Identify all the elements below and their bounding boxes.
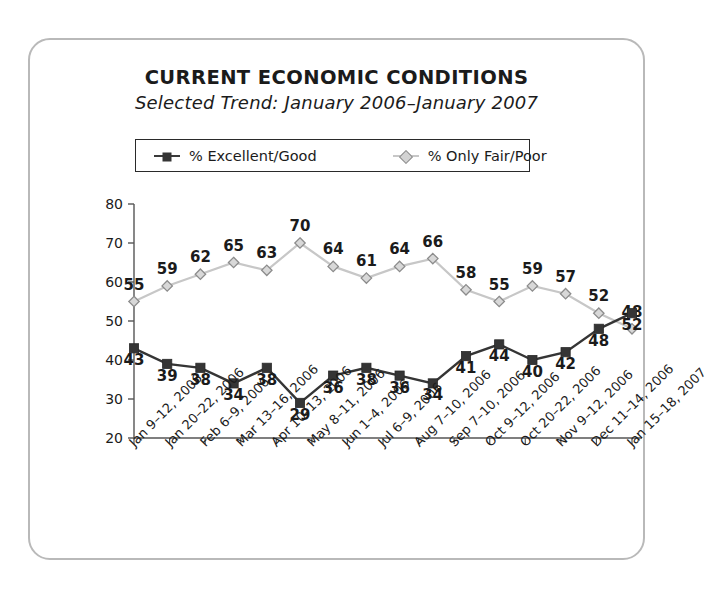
data-point-label: 55 xyxy=(489,276,510,294)
data-point-label: 58 xyxy=(456,264,477,282)
chart-card: CURRENT ECONOMIC CONDITIONS Selected Tre… xyxy=(28,38,645,560)
y-axis-tick-label: 50 xyxy=(105,313,123,329)
data-point-label: 55 xyxy=(124,276,145,294)
data-point-marker xyxy=(560,289,570,299)
data-point-label: 63 xyxy=(256,244,277,262)
data-point-label: 64 xyxy=(389,240,410,258)
data-point-marker xyxy=(394,261,404,271)
diamond-marker-icon xyxy=(399,149,413,163)
y-axis-tick-label: 40 xyxy=(105,352,123,368)
data-point-marker xyxy=(195,269,205,279)
data-point-label: 41 xyxy=(456,359,477,377)
data-point-label: 48 xyxy=(588,332,609,350)
data-point-label: 64 xyxy=(323,240,344,258)
data-point-label: 42 xyxy=(555,355,576,373)
data-point-label: 52 xyxy=(622,316,643,334)
data-point-label: 39 xyxy=(157,367,178,385)
data-point-label: 62 xyxy=(190,248,211,266)
data-point-marker xyxy=(494,296,504,306)
legend-item-only-fair-poor[interactable]: % Only Fair/Poor xyxy=(393,148,547,164)
chart-title: CURRENT ECONOMIC CONDITIONS xyxy=(30,66,643,89)
y-axis-tick-label: 30 xyxy=(105,391,123,407)
data-point-label: 61 xyxy=(356,252,377,270)
y-axis-tick-label: 60 xyxy=(105,274,123,290)
data-point-label: 59 xyxy=(157,260,178,278)
legend-item-excellent-good[interactable]: % Excellent/Good xyxy=(154,148,317,164)
data-point-marker xyxy=(527,281,537,291)
chart-legend: % Excellent/Good % Only Fair/Poor xyxy=(135,139,530,172)
data-point-label: 59 xyxy=(522,260,543,278)
x-axis-labels: Jan 9–12, 2006Jan 20–22, 2006Feb 6–9, 20… xyxy=(30,435,647,565)
data-point-label: 44 xyxy=(489,347,510,365)
y-axis-tick-label: 80 xyxy=(105,196,123,212)
data-point-label: 52 xyxy=(588,287,609,305)
data-point-label: 43 xyxy=(124,351,145,369)
data-point-label: 65 xyxy=(223,237,244,255)
y-axis-tick-label: 70 xyxy=(105,235,123,251)
data-point-marker xyxy=(361,273,371,283)
legend-line-excellent-good xyxy=(154,155,180,157)
square-marker-icon xyxy=(163,152,172,161)
legend-label-only-fair-poor: % Only Fair/Poor xyxy=(428,148,547,164)
chart-subtitle: Selected Trend: January 2006–January 200… xyxy=(30,92,643,113)
data-point-marker xyxy=(228,257,238,267)
legend-label-excellent-good: % Excellent/Good xyxy=(189,148,317,164)
data-point-label: 66 xyxy=(422,233,443,251)
data-point-marker xyxy=(594,308,604,318)
data-point-label: 70 xyxy=(290,217,311,235)
data-point-marker xyxy=(162,281,172,291)
data-point-marker xyxy=(129,296,139,306)
legend-line-only-fair-poor xyxy=(393,155,419,157)
data-point-label: 57 xyxy=(555,268,576,286)
